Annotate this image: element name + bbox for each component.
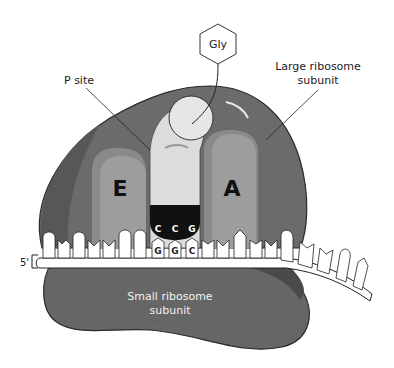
five-prime-label: 5' xyxy=(20,257,29,268)
anticodon-base: G xyxy=(188,224,195,234)
ribosome-diagram: Small ribosome subunit E A C C G xyxy=(0,0,394,368)
p-site-label: P site xyxy=(64,74,94,87)
e-site-label: E xyxy=(112,176,127,201)
small-subunit-label-line2: subunit xyxy=(150,304,192,317)
large-subunit-label: Large ribosome xyxy=(275,60,361,73)
large-subunit-label-line2: subunit xyxy=(298,74,340,87)
anticodon-base: C xyxy=(155,224,162,234)
anticodon: C C G xyxy=(155,224,196,234)
codon-base: C xyxy=(189,246,196,256)
codon-base: G xyxy=(171,246,178,256)
small-subunit-label: Small ribosome xyxy=(127,290,213,303)
codon: G G C xyxy=(154,246,195,256)
gly-label: Gly xyxy=(209,38,228,51)
codon-base: G xyxy=(154,246,161,256)
anticodon-base: C xyxy=(172,224,179,234)
a-site: A xyxy=(204,130,258,248)
small-ribosome-subunit: Small ribosome subunit xyxy=(44,262,310,349)
a-site-label: A xyxy=(223,176,240,201)
